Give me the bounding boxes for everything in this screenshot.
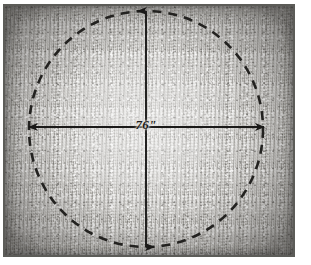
diameter-dimension-label: 76" [131, 116, 161, 133]
figure-root: 76" [0, 0, 311, 265]
